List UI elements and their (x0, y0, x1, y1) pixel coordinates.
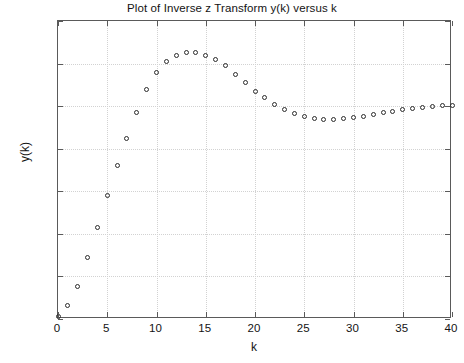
data-point (184, 50, 189, 55)
x-tick-mark (354, 312, 355, 317)
data-point (420, 105, 425, 110)
y-tick-mark-right (445, 234, 450, 235)
data-point (341, 116, 346, 121)
data-point (282, 107, 287, 112)
x-tick-mark-top (206, 21, 207, 26)
y-tick-mark-right (445, 21, 450, 22)
data-point (174, 53, 179, 58)
y-tick-mark (58, 234, 63, 235)
x-tick-label: 0 (54, 322, 60, 334)
chart-title: Plot of Inverse z Transform y(k) versus … (0, 2, 464, 14)
y-tick-mark-right (445, 191, 450, 192)
data-point (440, 103, 445, 108)
data-point (361, 114, 366, 119)
data-point (312, 116, 317, 121)
x-tick-mark-top (403, 21, 404, 26)
y-tick-mark-right (445, 64, 450, 65)
data-point (85, 255, 90, 260)
x-tick-mark (157, 312, 158, 317)
y-tick-mark (58, 21, 63, 22)
data-point (272, 102, 277, 107)
y-tick-mark-right (445, 276, 450, 277)
x-tick-mark (58, 312, 59, 317)
data-point (371, 112, 376, 117)
data-point (331, 117, 336, 122)
figure-canvas: Plot of Inverse z Transform y(k) versus … (0, 0, 464, 363)
data-point (105, 193, 110, 198)
data-point (381, 110, 386, 115)
y-tick-mark (58, 149, 63, 150)
data-point (400, 107, 405, 112)
x-tick-mark (403, 312, 404, 317)
data-point (410, 106, 415, 111)
data-point (144, 87, 149, 92)
x-tick-label: 15 (198, 322, 211, 334)
y-tick-mark-right (445, 319, 450, 320)
data-point (302, 114, 307, 119)
data-point (124, 136, 129, 141)
data-point (95, 225, 100, 230)
data-point (223, 63, 228, 68)
y-tick-mark (58, 319, 63, 320)
x-tick-label: 25 (297, 322, 310, 334)
data-point (164, 59, 169, 64)
data-point (134, 110, 139, 115)
x-tick-label: 40 (445, 322, 458, 334)
data-point (193, 50, 198, 55)
x-tick-mark (255, 312, 256, 317)
y-tick-mark (58, 64, 63, 65)
data-point (351, 115, 356, 120)
x-tick-mark (452, 312, 453, 317)
data-point (213, 57, 218, 62)
data-point (430, 104, 435, 109)
data-point (390, 109, 395, 114)
x-tick-mark-top (157, 21, 158, 26)
data-point (115, 163, 120, 168)
plot-area (57, 20, 451, 318)
y-tick-mark (58, 106, 63, 107)
x-tick-mark-top (255, 21, 256, 26)
x-tick-mark (107, 312, 108, 317)
x-tick-label: 30 (346, 322, 359, 334)
x-tick-label: 35 (395, 322, 408, 334)
data-point (253, 89, 258, 94)
y-tick-mark-right (445, 149, 450, 150)
data-point (154, 70, 159, 75)
data-point (450, 103, 455, 108)
data-point (65, 303, 70, 308)
data-point (262, 95, 267, 100)
x-tick-mark-top (354, 21, 355, 26)
data-point (233, 72, 238, 77)
data-point (321, 117, 326, 122)
data-points-layer (58, 21, 450, 317)
data-point (203, 53, 208, 58)
data-point (75, 284, 80, 289)
x-tick-mark (304, 312, 305, 317)
data-point (292, 111, 297, 116)
y-tick-mark (58, 191, 63, 192)
y-tick-mark-right (445, 106, 450, 107)
x-tick-mark-top (107, 21, 108, 26)
y-axis-label: y(k) (18, 122, 32, 182)
data-point (243, 80, 248, 85)
x-tick-label: 10 (149, 322, 162, 334)
x-tick-mark (206, 312, 207, 317)
x-tick-label: 20 (248, 322, 261, 334)
x-tick-mark-top (452, 21, 453, 26)
x-tick-label: 5 (103, 322, 109, 334)
x-axis-label: k (57, 340, 451, 354)
x-tick-mark-top (304, 21, 305, 26)
y-tick-mark (58, 276, 63, 277)
